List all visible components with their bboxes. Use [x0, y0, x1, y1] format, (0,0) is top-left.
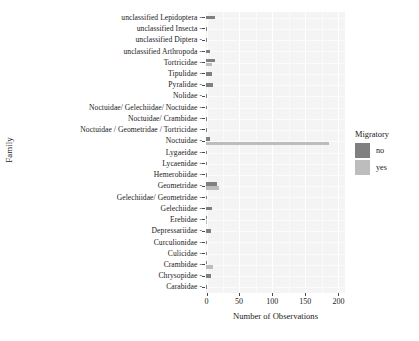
legend-item[interactable]: yes [355, 160, 417, 175]
x-axis-tick-label: 0 [205, 297, 209, 306]
bar-group [206, 147, 345, 158]
bar-group [206, 23, 345, 34]
y-axis-tick-label: Culicidae- [16, 248, 202, 259]
y-axis-tick-label-text: Nolidae [173, 92, 197, 100]
y-axis-tick-mark [202, 242, 205, 243]
y-axis-tick-label: unclassified Insecta- [16, 23, 202, 34]
y-axis-tick-mark [202, 85, 205, 86]
bar [206, 285, 207, 289]
legend-label: no [376, 146, 384, 155]
bar-group [206, 136, 345, 147]
y-axis-tick-mark [202, 186, 205, 187]
bar [206, 50, 210, 54]
bar-group [206, 79, 345, 90]
legend: Migratory noyes [355, 130, 417, 177]
bar [206, 252, 207, 256]
y-axis-title-label: Family [4, 137, 14, 163]
y-axis-tick-mark [202, 197, 205, 198]
bar-group [206, 248, 345, 259]
y-axis-tick-label: unclassified Diptera- [16, 34, 202, 45]
y-axis-tick-label: Gelechiidae/ Geometridae- [16, 192, 202, 203]
y-axis-tick-mark [202, 40, 205, 41]
bar [206, 63, 212, 67]
y-axis-tick-mark [202, 163, 205, 164]
x-axis-tick-mark [305, 293, 306, 296]
bar [206, 216, 207, 220]
bar-group [206, 91, 345, 102]
y-axis-tick-label-text: Geometridae [158, 182, 198, 190]
bar [206, 137, 210, 141]
y-axis-tick-label-text: Culicidae [168, 250, 198, 258]
x-axis-title: Number of Observations [206, 311, 345, 321]
y-axis-tick-label-text: Gelechiidae [161, 205, 198, 213]
legend-label: yes [376, 163, 387, 172]
bar [206, 83, 213, 87]
x-axis-tick-label: 50 [235, 297, 243, 306]
x-axis-title-label: Number of Observations [233, 311, 318, 321]
bar [206, 196, 207, 200]
y-axis-tick-mark [202, 73, 205, 74]
y-axis-tick-label-text: unclassified Diptera [135, 36, 197, 44]
bar-group [206, 203, 345, 214]
y-axis-tick-label-text: Tortricidae [164, 59, 198, 67]
bar [206, 186, 219, 190]
y-axis-tick-label: Depressariidae- [16, 225, 202, 236]
bar-group [206, 259, 345, 270]
bar-group [206, 282, 345, 293]
bar [206, 162, 207, 166]
bar-group [206, 158, 345, 169]
y-axis-tick-label-text: Gelechiidae/ Geometridae [117, 194, 198, 202]
x-axis-tick-mark [239, 293, 240, 296]
y-axis-tick-label: Pyralidae- [16, 79, 202, 90]
bar [206, 16, 215, 20]
y-axis-tick-label: Gelechiidae- [16, 203, 202, 214]
y-axis-tick-label: Curculionidae- [16, 237, 202, 248]
bar [206, 265, 213, 269]
y-axis-tick-mark [202, 253, 205, 254]
legend-color-swatch [355, 143, 370, 158]
y-axis-tick-label: Noctuidae/ Gelechiidae/ Noctuidae- [16, 102, 202, 113]
y-axis-tick-label: Lycaenidae- [16, 158, 202, 169]
y-axis-tick-mark [202, 264, 205, 265]
bar [206, 274, 211, 278]
y-axis-tick-label-text: unclassified Lepidoptera [121, 14, 197, 22]
x-axis-tick-label: 200 [332, 297, 344, 306]
y-axis-tick-label-text: Noctuidae [166, 137, 198, 145]
bar [206, 207, 212, 211]
y-axis-tick-labels: unclassified Lepidoptera-unclassified In… [16, 12, 202, 293]
y-axis-tick-label-text: unclassified Insecta [137, 25, 198, 33]
y-axis-tick-label-text: Hemerobiidae [154, 171, 198, 179]
bar-group [206, 181, 345, 192]
x-axis-tick-labels: 050100150200 [206, 297, 345, 309]
bar [206, 106, 207, 110]
y-axis-tick-label-text: Pyralidae [168, 81, 197, 89]
bar-group [206, 68, 345, 79]
y-axis-tick-label: unclassified Lepidoptera- [16, 12, 202, 23]
y-axis-tick-label: Crambidae- [16, 259, 202, 270]
y-axis-tick-mark [202, 62, 205, 63]
y-axis-tick-label-text: Lygaeidae [166, 149, 198, 157]
y-axis-tick-label-text: unclassified Arthropoda [124, 48, 198, 56]
y-axis-tick-label-text: Noctuidae/ Gelechiidae/ Noctuidae [89, 104, 197, 112]
y-axis-tick-label: Hemerobiidae- [16, 169, 202, 180]
y-axis-tick-label-text: Erebidae [170, 216, 197, 224]
legend-color-swatch [355, 160, 370, 175]
y-axis-tick-label: Erebidae- [16, 214, 202, 225]
y-axis-tick-label-text: Carabidae [166, 283, 197, 291]
bar [206, 38, 207, 42]
legend-items: noyes [355, 143, 417, 175]
bar [206, 59, 215, 63]
y-axis-tick-mark [202, 51, 205, 52]
bar [206, 128, 207, 132]
bar-group [206, 192, 345, 203]
legend-item[interactable]: no [355, 143, 417, 158]
bar-group [206, 12, 345, 23]
legend-title: Migratory [355, 130, 417, 139]
y-axis-tick-label: Noctuidae / Geometridae / Tortricidae- [16, 124, 202, 135]
y-axis-tick-label: Carabidae- [16, 282, 202, 293]
y-axis-tick-mark [202, 152, 205, 153]
y-axis-title: Family [2, 0, 16, 300]
bar-group [206, 34, 345, 45]
chart-figure: Family unclassified Lepidoptera-unclassi… [0, 0, 419, 341]
bar [206, 117, 207, 121]
